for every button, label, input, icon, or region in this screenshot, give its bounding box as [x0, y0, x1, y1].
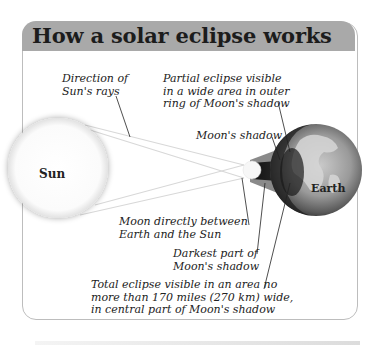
label-moon-between: Moon directly between Earth and the Sun: [119, 216, 248, 241]
earth-label: Earth: [311, 182, 345, 195]
moon: [243, 161, 261, 179]
earth: [270, 124, 362, 216]
label-sun-rays: Direction of Sun's rays: [62, 73, 128, 98]
label-moon-shadow: Moon's shadow: [196, 130, 282, 143]
label-darkest-part: Darkest part of Moon's shadow: [173, 248, 251, 273]
sun-label: Sun: [39, 167, 65, 181]
bottom-divider: [35, 341, 360, 345]
label-total-eclipse: Total eclipse visible in an area no more…: [91, 279, 293, 317]
label-partial-eclipse: Partial eclipse visible in a wide area i…: [163, 73, 290, 111]
